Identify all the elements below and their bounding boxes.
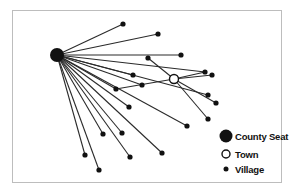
- legend-county-seat-label: County Seat: [235, 131, 289, 142]
- village-node: [127, 154, 132, 159]
- connection-line: [174, 79, 208, 119]
- connection-line: [57, 34, 158, 55]
- village-node: [155, 31, 160, 36]
- connection-line: [57, 55, 116, 89]
- county-seat-node: [50, 48, 64, 62]
- legend-village-icon: [224, 167, 229, 172]
- village-node: [205, 92, 210, 97]
- legend-county-seat-icon: [220, 130, 233, 143]
- connection-line: [57, 55, 103, 134]
- village-node: [213, 100, 218, 105]
- village-node: [119, 130, 124, 135]
- legend-town-icon: [222, 150, 230, 158]
- village-node: [184, 123, 189, 128]
- legend-town-label: Town: [235, 149, 259, 160]
- village-node: [113, 86, 118, 91]
- village-node: [202, 69, 207, 74]
- village-node: [82, 152, 87, 157]
- village-node: [139, 82, 144, 87]
- village-node: [120, 21, 125, 26]
- legend: County Seat Town Village: [220, 130, 290, 176]
- connection-line: [174, 75, 212, 79]
- connection-line: [57, 55, 85, 155]
- connection-line: [57, 24, 123, 55]
- connection-line: [57, 55, 130, 157]
- connection-line: [57, 55, 205, 72]
- connection-line: [57, 55, 129, 107]
- connection-line: [57, 55, 99, 170]
- connection-line: [174, 79, 216, 103]
- town-node: [170, 75, 179, 84]
- village-node: [205, 116, 210, 121]
- legend-village-label: Village: [235, 164, 264, 175]
- village-node: [159, 150, 164, 155]
- village-node: [100, 131, 105, 136]
- village-node: [130, 72, 135, 77]
- network-diagram: County Seat Town Village: [0, 0, 298, 189]
- village-node: [145, 55, 150, 60]
- village-node: [126, 104, 131, 109]
- village-node: [96, 167, 101, 172]
- village-node: [209, 72, 214, 77]
- connection-lines: [57, 24, 216, 170]
- village-node: [178, 52, 183, 57]
